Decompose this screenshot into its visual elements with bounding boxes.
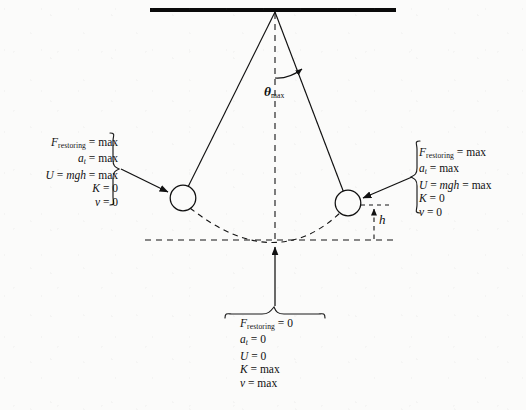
pendulum-string-right [275, 12, 347, 201]
left-line-kinetic-energy: K = 0 [24, 182, 118, 196]
right-line-velocity: v = 0 [419, 206, 523, 220]
left-line-potential-energy: U = mgh = max [24, 169, 118, 183]
pendulum-bob-left [170, 185, 196, 211]
lowest-point-label-block: Frestoring = 0 at = 0 U = 0 K = max v = … [240, 317, 380, 390]
theta-max-label: θmax [264, 84, 284, 100]
left-line-a-tangential: at = max [24, 152, 118, 168]
bottom-line-f-restoring: Frestoring = 0 [240, 317, 380, 333]
height-h-label: h [379, 212, 386, 228]
right-label-pointer-arrow [363, 177, 412, 198]
left-label-pointer-arrow [121, 169, 168, 192]
pendulum-bob-right [335, 190, 361, 216]
left-line-velocity: v = 0 [24, 196, 118, 210]
right-line-potential-energy: U = mgh = max [419, 179, 523, 193]
bottom-line-kinetic-energy: K = max [240, 363, 380, 377]
bottom-line-a-tangential: at = 0 [240, 333, 380, 349]
theta-symbol: θ [264, 84, 271, 99]
bottom-line-potential-energy: U = 0 [240, 350, 380, 364]
right-line-f-restoring: Frestoring = max [419, 146, 523, 162]
right-extreme-label-block: Frestoring = max at = max U = mgh = max … [419, 146, 523, 219]
swing-path-dashed-arc [190, 208, 341, 243]
pendulum-string-left [184, 12, 276, 196]
left-extreme-label-block: Frestoring = max at = max U = mgh = max … [24, 136, 118, 209]
theta-subscript: max [271, 91, 284, 100]
bottom-line-velocity: v = max [240, 377, 380, 391]
pendulum-diagram: θmax h Frestoring = max at = max U = mgh… [0, 0, 526, 410]
left-line-f-restoring: Frestoring = max [24, 136, 118, 152]
right-line-a-tangential: at = max [419, 162, 523, 178]
right-line-kinetic-energy: K = 0 [419, 192, 523, 206]
